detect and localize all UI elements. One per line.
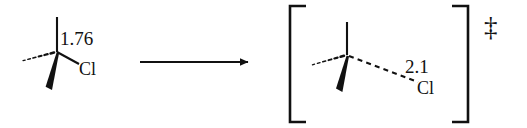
transition-state-chlorine-label: Cl xyxy=(417,79,434,97)
double-dagger-symbol: ‡ xyxy=(484,14,498,41)
transition-state-bond-distance-label: 2.1 xyxy=(405,57,429,76)
reactant-chlorine-label: Cl xyxy=(79,60,96,78)
reactant-hashed-bond-left xyxy=(23,53,54,61)
bracket-right xyxy=(452,6,468,122)
reactant-wedge-bond-down xyxy=(46,53,59,91)
reactant-bond-distance-label: 1.76 xyxy=(60,29,93,48)
transition-state-structure xyxy=(312,22,418,92)
ts-hashed-bond-left xyxy=(312,56,344,65)
ts-wedge-bond-down xyxy=(336,56,349,93)
reactant-bond-to-cl xyxy=(57,52,79,64)
bracket-left xyxy=(290,6,306,122)
reaction-scheme-figure: 1.76 Cl 2.1 Cl ‡ xyxy=(0,0,527,128)
